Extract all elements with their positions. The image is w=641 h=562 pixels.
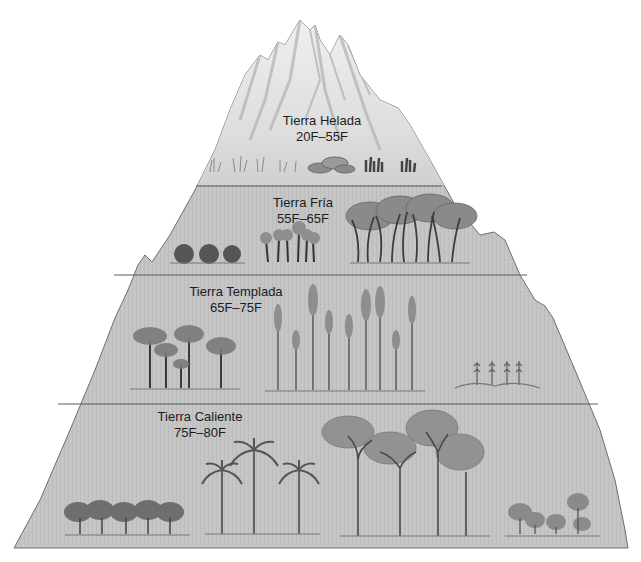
zone-temperature-range: 55F–65F — [273, 211, 333, 227]
zone-label-tierra-caliente: Tierra Caliente 75F–80F — [158, 409, 243, 441]
zone-label-tierra-templada: Tierra Templada 65F–75F — [189, 284, 282, 316]
zone-temperature-range: 65F–75F — [189, 300, 282, 316]
zone-label-tierra-helada: Tierra Helada 20F–55F — [283, 113, 361, 145]
climate-zones-diagram: Tierra Helada 20F–55F Tierra Fría 55F–65… — [0, 0, 641, 562]
zone-name: Tierra Templada — [189, 284, 282, 300]
zone-temperature-range: 75F–80F — [158, 425, 243, 441]
zone-label-tierra-fria: Tierra Fría 55F–65F — [273, 195, 333, 227]
zone-name: Tierra Helada — [283, 113, 361, 129]
zone-temperature-range: 20F–55F — [283, 129, 361, 145]
zone-name: Tierra Caliente — [158, 409, 243, 425]
mountain-illustration — [0, 0, 641, 562]
zone-name: Tierra Fría — [273, 195, 333, 211]
